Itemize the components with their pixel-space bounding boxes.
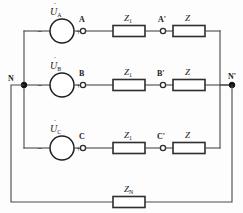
terminal-a-node xyxy=(80,28,85,33)
z-load-c-box xyxy=(173,143,205,154)
terminal-a-prime-node xyxy=(160,28,165,33)
terminal-a-label: A xyxy=(79,15,85,24)
source-a-minus-sign: − xyxy=(37,26,42,36)
z-load-c-label: Z xyxy=(185,130,191,140)
source-a-phasor-dot: ˙ xyxy=(54,1,57,11)
z1-phase-b-label: Z1 xyxy=(124,67,132,78)
z1-phase-a-box xyxy=(113,26,145,37)
source-a-symbol xyxy=(50,19,74,43)
z-load-a-box xyxy=(173,26,205,37)
source-c-minus-sign: − xyxy=(37,143,42,153)
source-c-symbol xyxy=(50,136,74,160)
phase-c-row: UC ˙ − + C Z1 C' Z xyxy=(24,118,220,160)
z1-phase-b-box xyxy=(113,80,145,91)
terminal-b-prime-label: B' xyxy=(157,69,165,78)
terminal-a-prime-label: A' xyxy=(158,15,166,24)
terminal-b-label: B xyxy=(79,69,85,78)
z-load-a-label: Z xyxy=(185,13,191,23)
terminal-b-prime-node xyxy=(160,82,165,87)
z1-phase-c-box xyxy=(113,143,145,154)
z1-phase-c-label: Z1 xyxy=(124,130,132,141)
source-b-phasor-dot: ˙ xyxy=(54,55,57,65)
source-c-phasor-dot: ˙ xyxy=(54,118,57,128)
terminal-c-prime-label: C' xyxy=(157,132,165,141)
terminal-b-node xyxy=(80,82,85,87)
terminal-c-label: C xyxy=(79,132,85,141)
terminal-c-node xyxy=(80,145,85,150)
source-b-symbol xyxy=(50,73,74,97)
source-b-minus-sign: − xyxy=(37,80,42,90)
circuit-canvas: UA ˙ − + A Z1 A' Z xyxy=(0,0,243,213)
phase-a-row: UA ˙ − + A Z1 A' Z xyxy=(24,1,220,43)
zn-box xyxy=(113,197,145,208)
z-load-b-label: Z xyxy=(185,67,191,77)
node-n-prime-label: N' xyxy=(228,72,236,81)
phase-b-row: UB ˙ − + B Z1 B' Z xyxy=(24,55,232,97)
z1-phase-a-label: Z1 xyxy=(124,13,132,24)
z-load-b-box xyxy=(173,80,205,91)
node-n-label: N xyxy=(8,74,14,83)
circuit-diagram: UA ˙ − + A Z1 A' Z xyxy=(0,0,243,213)
terminal-c-prime-node xyxy=(160,145,165,150)
zn-label: ZN xyxy=(124,184,134,195)
